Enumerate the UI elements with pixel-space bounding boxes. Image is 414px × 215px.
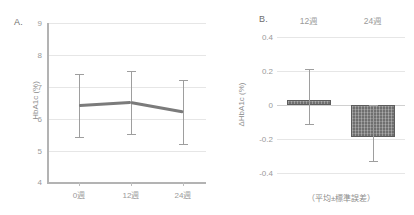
panel-b-y-axis-title: ΔHbA1c (%) [237, 65, 246, 145]
x-label-week2: 24週 [166, 189, 200, 200]
panel-b-header-week24: 24週 [353, 14, 393, 26]
x-label-week0: 0週 [62, 189, 96, 200]
gridline-p04 [277, 37, 405, 38]
error-cap-lower-week24 [179, 144, 188, 145]
y-tick-4: 4 [28, 178, 42, 187]
error-cap-upper-week0 [75, 74, 84, 75]
series-segment-1 [131, 101, 184, 113]
error-cap-upper-week12 [127, 71, 136, 72]
y-tick-5: 5 [28, 147, 42, 156]
error-bar-week24-delta [373, 105, 374, 161]
panel-b-letter: B. [259, 14, 268, 24]
panel-a-line-chart: A. HbA1c (%) 9 8 7 6 5 4 0週 12週 24週 [0, 0, 207, 215]
gridline-m02 [277, 139, 405, 140]
error-cap-lower-week12-delta [305, 124, 314, 125]
gridline-9 [48, 23, 206, 24]
error-cap-lower-week0 [75, 137, 84, 138]
y-tick-8: 8 [28, 51, 42, 60]
panel-a-y-axis-title: HbA1c (%) [31, 64, 40, 138]
error-bar-week12-delta [309, 69, 310, 123]
error-cap-lower-week24-delta [369, 161, 378, 162]
error-cap-lower-week12 [127, 134, 136, 135]
panel-b-y-tick-0: 0 [247, 101, 273, 110]
x-tickmark-0 [79, 182, 80, 186]
x-label-week12: 12週 [114, 189, 148, 200]
gridline-p02 [277, 71, 405, 72]
panel-b-y-tick-m04: -0.4 [247, 169, 273, 178]
y-tick-7: 7 [28, 83, 42, 92]
error-bar-week24 [183, 80, 184, 144]
error-cap-upper-week12-delta [305, 69, 314, 70]
panel-b-header-week12: 12週 [289, 14, 329, 26]
gridline-5 [48, 151, 206, 152]
panel-b-bar-chart: B. ΔHbA1c (%) 12週 24週 0.4 0.2 0 -0.2 -0.… [207, 0, 414, 215]
y-tick-9: 9 [28, 19, 42, 28]
gridline-8 [48, 55, 206, 56]
panel-a-letter: A. [14, 17, 23, 27]
gridline-m04 [277, 173, 405, 174]
panel-b-y-tick-m02: -0.2 [247, 135, 273, 144]
panel-a-y-axis [47, 23, 49, 183]
y-tick-6: 6 [28, 115, 42, 124]
series-segment-0 [79, 101, 131, 107]
panel-b-y-tick-02: 0.2 [247, 67, 273, 76]
x-tickmark-1 [131, 182, 132, 186]
x-tickmark-2 [183, 182, 184, 186]
panel-b-y-tick-04: 0.4 [247, 33, 273, 42]
error-cap-upper-week24 [179, 80, 188, 81]
figure-container: A. HbA1c (%) 9 8 7 6 5 4 0週 12週 24週 [0, 0, 414, 215]
figure-footnote: （平均±標準誤差） [307, 192, 375, 203]
error-cap-upper-week24-delta [369, 105, 378, 106]
